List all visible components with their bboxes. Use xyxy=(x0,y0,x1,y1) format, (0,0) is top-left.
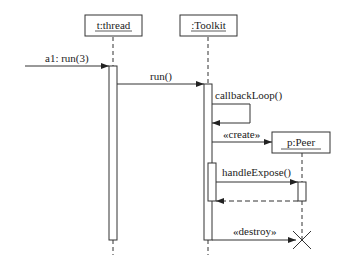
activation-peer xyxy=(298,182,306,201)
message-create: «create» xyxy=(212,128,272,142)
activation-toolkit-nested xyxy=(208,163,216,201)
message-label: run() xyxy=(150,70,172,83)
object-toolkit: :Toolkit xyxy=(180,15,237,36)
message-callbackloop: callbackLoop() xyxy=(212,89,283,123)
message-handleexpose: handleExpose() xyxy=(216,166,298,182)
message-label: a1: run(3) xyxy=(45,52,89,65)
message-run3: a1: run(3) xyxy=(25,52,109,66)
message-label: «create» xyxy=(223,128,260,140)
message-label: callbackLoop() xyxy=(215,89,283,102)
activation-toolkit xyxy=(204,84,212,240)
object-label: p:Peer xyxy=(287,136,315,148)
object-label: :Toolkit xyxy=(191,19,226,31)
message-run: run() xyxy=(117,70,204,84)
message-destroy: «destroy» xyxy=(212,225,296,240)
object-label: t:thread xyxy=(97,19,131,31)
message-label: handleExpose() xyxy=(222,166,291,179)
object-peer: p:Peer xyxy=(272,132,330,153)
self-call-arrow xyxy=(212,104,250,123)
activation-thread xyxy=(109,66,117,240)
sequence-diagram: t:thread :Toolkit p:Peer a1: run(3) run(… xyxy=(0,0,349,270)
object-thread: t:thread xyxy=(85,15,142,36)
message-label: «destroy» xyxy=(233,225,276,237)
